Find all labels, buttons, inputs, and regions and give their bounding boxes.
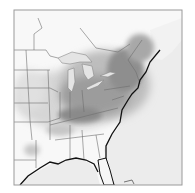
eastern-us-map [0,0,195,193]
map-container [0,0,195,193]
